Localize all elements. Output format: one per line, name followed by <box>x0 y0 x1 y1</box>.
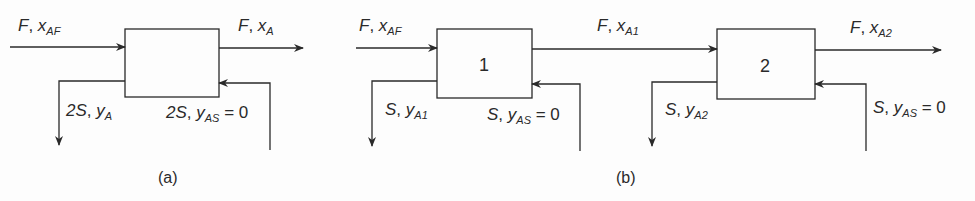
solvent-2-label: S, yAS = 0 <box>873 99 946 119</box>
extract-2-label: S, yA2 <box>665 101 708 121</box>
extract-label-a: 2S, yA <box>66 102 112 122</box>
feed-label-a: F, xAF <box>18 17 60 37</box>
solvent-2-arrow <box>815 84 866 151</box>
raffinate-label-a: F, xA <box>238 17 274 37</box>
caption-a: (a) <box>158 170 178 186</box>
stage-1-label: 1 <box>479 56 489 74</box>
intermediate-label-b: F, xA1 <box>597 17 639 37</box>
extractor-box-a <box>125 29 219 97</box>
raffinate-label-b: F, xA2 <box>850 19 892 39</box>
extract-1-label: S, yA1 <box>385 101 428 121</box>
flow-lines <box>0 0 975 201</box>
caption-b: (b) <box>616 170 636 186</box>
solvent-label-a: 2S, yAS = 0 <box>166 104 248 124</box>
stage-2-label: 2 <box>760 57 770 75</box>
extraction-diagram: F, xAF F, xA 2S, yA 2S, yAS = 0 (a) F, x… <box>0 0 975 201</box>
solvent-1-label: S, yAS = 0 <box>487 106 560 126</box>
feed-label-b: F, xAF <box>359 17 401 37</box>
